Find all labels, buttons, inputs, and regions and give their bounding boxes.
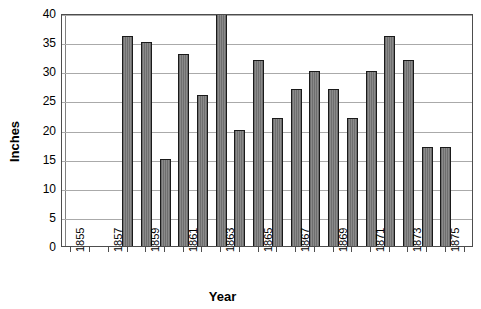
bar-1858[interactable]: [122, 36, 133, 246]
x-tick-label-text: 1863: [224, 228, 236, 252]
bar-1872[interactable]: [384, 36, 395, 246]
bar-1865[interactable]: [253, 60, 264, 246]
x-tick-label-1873: 1873: [401, 252, 413, 290]
x-tick-label-1857: 1857: [102, 252, 114, 290]
x-tick-label-text: 1861: [187, 228, 199, 252]
bar-1868[interactable]: [309, 71, 320, 246]
y-tick-label-20: 20: [28, 126, 56, 136]
y-tick-label-30: 30: [28, 67, 56, 77]
x-tick-label-text: 1871: [374, 228, 386, 252]
y-tick-label-5: 5: [28, 213, 56, 223]
plot-area: [61, 14, 473, 247]
x-tick-label-text: 1857: [112, 228, 124, 252]
x-tick-label-1863: 1863: [214, 252, 226, 290]
x-tick-label-1875: 1875: [439, 252, 451, 290]
x-tick-label-text: 1867: [299, 228, 311, 252]
y-axis-tick-labels: 0510152025303540: [28, 14, 56, 247]
x-axis-tick-labels: 1855185718591861186318651867186918711873…: [61, 252, 473, 290]
x-tick-label-1871: 1871: [364, 252, 376, 290]
y-tick-label-25: 25: [28, 96, 56, 106]
bar-1859[interactable]: [141, 42, 152, 246]
y-tick-label-15: 15: [28, 155, 56, 165]
y-tick-label-35: 35: [28, 38, 56, 48]
bar-1864[interactable]: [234, 130, 245, 247]
x-tick-label-text: 1855: [74, 228, 86, 252]
y-tick-label-40: 40: [28, 9, 56, 19]
y-axis-title-text: Inches: [8, 120, 23, 161]
bar-1874[interactable]: [422, 147, 433, 246]
x-tick-label-text: 1873: [411, 228, 423, 252]
x-tick-label-text: 1875: [449, 228, 461, 252]
x-tick-label-1865: 1865: [252, 252, 264, 290]
x-axis-title: Year: [0, 289, 481, 304]
x-axis-title-text: Year: [209, 289, 236, 304]
bar-1871[interactable]: [366, 71, 377, 246]
x-tick-label-1859: 1859: [139, 252, 151, 290]
x-tick-label-1861: 1861: [177, 252, 189, 290]
y-axis-title: Inches: [4, 86, 26, 196]
x-tick-label-text: 1859: [149, 228, 161, 252]
bar-1863[interactable]: [216, 14, 227, 246]
bar-1867[interactable]: [291, 89, 302, 246]
x-tick-label-1869: 1869: [327, 252, 339, 290]
x-tick-label-text: 1865: [262, 228, 274, 252]
bar-1862[interactable]: [197, 95, 208, 246]
bar-1873[interactable]: [403, 60, 414, 246]
y-tick-label-10: 10: [28, 184, 56, 194]
bar-1860[interactable]: [160, 159, 171, 246]
y-tick-label-0: 0: [28, 242, 56, 252]
bar-1869[interactable]: [328, 89, 339, 246]
rainfall-bar-chart: Inches 0510152025303540 1855185718591861…: [0, 0, 481, 309]
x-tick-label-1867: 1867: [289, 252, 301, 290]
bar-1861[interactable]: [178, 54, 189, 246]
bars-layer: [62, 15, 472, 246]
x-tick-label-text: 1869: [337, 228, 349, 252]
x-tick-label-1855: 1855: [64, 252, 76, 290]
